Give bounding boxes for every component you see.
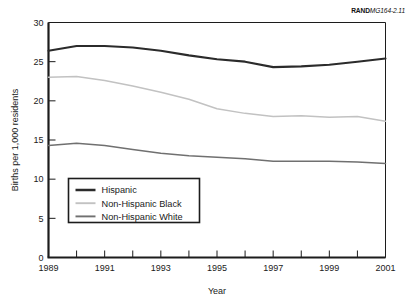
y-tick-label: 25	[33, 57, 43, 67]
x-tick-label: 1991	[95, 263, 115, 273]
y-axis-title: Births per 1,000 residents	[10, 88, 20, 191]
x-axis-title: Year	[208, 286, 226, 296]
y-tick-label: 5	[38, 214, 43, 224]
legend-label: Hispanic	[102, 185, 138, 195]
y-tick-label: 10	[33, 174, 43, 184]
x-tick-label: 1997	[263, 263, 283, 273]
rand-brand-label: RAND	[351, 7, 370, 14]
x-axis-tick-labels: 1989199119931995199719992001	[38, 263, 395, 273]
y-tick-label: 15	[33, 135, 43, 145]
x-tick-label: 1995	[207, 263, 227, 273]
rand-credit-line: RANDMG164-2.11	[351, 7, 405, 14]
series-line-non-hispanic-white	[49, 143, 386, 163]
x-tick-label: 2001	[375, 263, 395, 273]
series-line-hispanic	[49, 46, 386, 67]
y-tick-label: 0	[38, 253, 43, 263]
data-series-group	[49, 46, 386, 164]
y-tick-label: 20	[33, 96, 43, 106]
figure-container: RANDMG164-2.11 051015202530 198919911993…	[0, 0, 413, 307]
legend-label: Non-Hispanic Black	[102, 199, 183, 209]
y-axis-tick-labels: 051015202530	[33, 18, 43, 263]
series-line-non-hispanic-black	[49, 77, 386, 122]
chart-legend[interactable]: HispanicNon-Hispanic BlackNon-Hispanic W…	[69, 179, 200, 223]
x-tick-label: 1993	[151, 263, 171, 273]
legend-label: Non-Hispanic White	[102, 212, 183, 222]
x-tick-label: 1999	[319, 263, 339, 273]
line-chart: 051015202530 198919911993199519971999200…	[0, 0, 413, 307]
x-tick-label: 1989	[38, 263, 58, 273]
y-tick-label: 30	[33, 18, 43, 28]
rand-document-id: MG164-2.11	[370, 7, 405, 14]
